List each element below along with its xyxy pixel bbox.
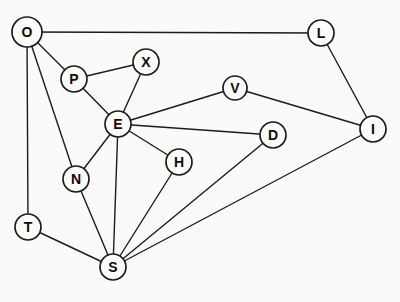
node-label-P: P [69, 71, 78, 87]
graph-diagram: OLPXVEDIHNTS [0, 0, 400, 302]
edge-E-S [113, 124, 118, 267]
edge-L-I [321, 33, 373, 129]
edge-V-I [235, 88, 373, 129]
graph-node-H: H [166, 149, 192, 175]
graph-node-V: V [223, 76, 247, 100]
graph-node-P: P [61, 66, 87, 92]
graph-canvas: OLPXVEDIHNTS [0, 0, 400, 302]
graph-node-D: D [260, 122, 286, 148]
graph-node-N: N [63, 166, 89, 192]
graph-node-L: L [308, 20, 334, 46]
graph-node-X: X [133, 49, 159, 75]
node-label-H: H [174, 154, 184, 170]
graph-node-S: S [100, 254, 126, 280]
graph-node-I: I [360, 116, 386, 142]
edge-O-N [27, 32, 76, 179]
edge-O-L [27, 32, 321, 33]
node-label-X: X [141, 54, 151, 70]
edge-T-S [28, 227, 113, 267]
nodes-layer: OLPXVEDIHNTS [12, 17, 386, 280]
edge-N-S [76, 179, 113, 267]
edge-D-S [113, 135, 273, 267]
node-label-S: S [108, 259, 117, 275]
node-label-D: D [268, 127, 278, 143]
edge-I-S [113, 129, 373, 267]
node-label-V: V [230, 80, 240, 96]
node-label-L: L [317, 25, 326, 41]
node-label-T: T [24, 219, 33, 235]
graph-node-E: E [105, 111, 131, 137]
edge-O-T [27, 32, 28, 227]
edge-E-D [118, 124, 273, 135]
edge-E-V [118, 88, 235, 124]
node-label-I: I [371, 121, 375, 137]
node-label-O: O [22, 24, 33, 40]
graph-node-T: T [15, 214, 41, 240]
edge-H-S [113, 162, 179, 267]
node-label-N: N [71, 171, 81, 187]
graph-node-O: O [12, 17, 42, 47]
node-label-E: E [113, 116, 122, 132]
